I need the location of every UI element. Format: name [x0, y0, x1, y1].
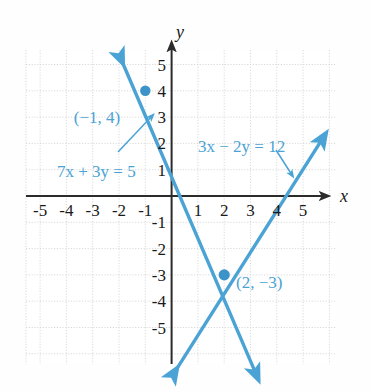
y-tick-label: -3	[152, 266, 166, 285]
x-tick-label: 2	[220, 201, 229, 220]
x-axis-label: x	[339, 186, 348, 206]
x-tick-label: -5	[33, 201, 47, 220]
y-tick-label: 3	[158, 108, 167, 127]
coordinate-plane: -5 -4 -3 -2 -1 1 2 3 4 5 5 4 3 2 1 -1 -2…	[0, 0, 371, 392]
y-tick-label: 1	[158, 161, 167, 180]
y-tick-label: -2	[152, 240, 166, 259]
y-axis-label: y	[174, 22, 184, 42]
x-tick-label: -4	[59, 201, 74, 220]
graph-figure: -5 -4 -3 -2 -1 1 2 3 4 5 5 4 3 2 1 -1 -2…	[0, 0, 371, 392]
point-marker-2-neg3	[219, 269, 230, 280]
x-tick-label: -2	[112, 201, 126, 220]
y-tick-label: -5	[152, 319, 166, 338]
y-tick-label: -4	[152, 292, 167, 311]
y-tick-label: 2	[158, 134, 167, 153]
equation-label-7x-3y: 7x + 3y = 5	[57, 162, 136, 181]
y-tick-label: 5	[158, 56, 167, 75]
equation-label-3x-2y: 3x − 2y = 12	[198, 137, 285, 156]
x-tick-label: 3	[246, 201, 255, 220]
x-tick-label: -3	[86, 201, 100, 220]
x-tick-label: 5	[299, 201, 308, 220]
point-label-2-neg3: (2, −3)	[236, 273, 282, 292]
x-tick-label: -1	[138, 201, 152, 220]
point-marker-neg1-4	[140, 86, 150, 96]
x-tick-label: 1	[194, 201, 203, 220]
y-tick-label: 4	[158, 82, 167, 101]
y-tick-label: -1	[152, 213, 166, 232]
point-label-neg1-4: (−1, 4)	[74, 108, 120, 127]
x-tick-label: 4	[273, 201, 282, 220]
